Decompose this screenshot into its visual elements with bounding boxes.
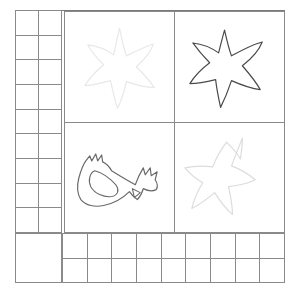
picture-cell-bottom-left[interactable] bbox=[65, 123, 175, 234]
left-tally-strip bbox=[15, 10, 62, 283]
left-tally-cell[interactable] bbox=[16, 159, 39, 184]
starfish-icon bbox=[175, 12, 284, 122]
bottom-tally-cell[interactable] bbox=[260, 259, 285, 284]
left-tally-footer-cell[interactable] bbox=[15, 233, 62, 283]
bottom-tally-cell[interactable] bbox=[211, 234, 236, 259]
bottom-tally-cell[interactable] bbox=[260, 234, 285, 259]
rooster-icon bbox=[65, 123, 174, 233]
bottom-tally-cell[interactable] bbox=[236, 259, 261, 284]
left-tally-cell[interactable] bbox=[16, 184, 39, 209]
picture-cell-top-right[interactable] bbox=[175, 12, 285, 123]
starfish-icon bbox=[175, 123, 284, 233]
picture-cell-top-left[interactable] bbox=[65, 12, 175, 123]
bottom-tally-grid bbox=[62, 233, 285, 283]
left-tally-cell[interactable] bbox=[39, 134, 62, 159]
bottom-tally-cell[interactable] bbox=[236, 234, 261, 259]
left-tally-cell[interactable] bbox=[39, 60, 62, 85]
worksheet-canvas bbox=[0, 0, 299, 297]
bottom-tally-cell[interactable] bbox=[63, 234, 88, 259]
left-tally-cell[interactable] bbox=[39, 36, 62, 61]
bottom-tally-cell[interactable] bbox=[112, 259, 137, 284]
left-tally-cell[interactable] bbox=[39, 11, 62, 36]
left-tally-cell[interactable] bbox=[39, 110, 62, 135]
bottom-tally-cell[interactable] bbox=[211, 259, 236, 284]
left-tally-cell[interactable] bbox=[16, 110, 39, 135]
bottom-tally-cell[interactable] bbox=[88, 259, 113, 284]
left-tally-cell[interactable] bbox=[16, 11, 39, 36]
starfish-icon bbox=[65, 12, 174, 122]
left-tally-cell[interactable] bbox=[16, 85, 39, 110]
left-tally-cell[interactable] bbox=[39, 85, 62, 110]
bottom-tally-cell[interactable] bbox=[88, 234, 113, 259]
left-tally-cell[interactable] bbox=[39, 208, 62, 233]
bottom-tally-cell[interactable] bbox=[137, 234, 162, 259]
bottom-tally-cell[interactable] bbox=[162, 234, 187, 259]
bottom-tally-cell[interactable] bbox=[137, 259, 162, 284]
bottom-tally-cell[interactable] bbox=[112, 234, 137, 259]
bottom-tally-cell[interactable] bbox=[162, 259, 187, 284]
left-tally-grid bbox=[15, 10, 62, 233]
left-tally-cell[interactable] bbox=[16, 60, 39, 85]
left-tally-cell[interactable] bbox=[39, 184, 62, 209]
left-tally-cell[interactable] bbox=[16, 134, 39, 159]
bottom-tally-strip bbox=[62, 233, 285, 283]
picture-cell-bottom-right[interactable] bbox=[175, 123, 285, 234]
left-tally-cell[interactable] bbox=[39, 159, 62, 184]
left-tally-cell[interactable] bbox=[16, 36, 39, 61]
picture-panel bbox=[64, 11, 285, 233]
bottom-tally-cell[interactable] bbox=[186, 259, 211, 284]
left-tally-cell[interactable] bbox=[16, 208, 39, 233]
bottom-tally-cell[interactable] bbox=[186, 234, 211, 259]
bottom-tally-cell[interactable] bbox=[63, 259, 88, 284]
